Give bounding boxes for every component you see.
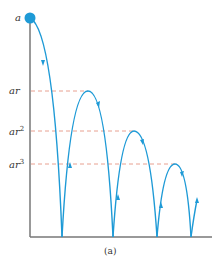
arrow-down-icon <box>140 139 144 145</box>
level-ar2-label: ar2 <box>9 126 24 137</box>
diagram-canvas <box>0 0 212 260</box>
arrow-down-icon <box>41 60 45 66</box>
start-height-label: a <box>15 13 21 23</box>
bouncing-ball-diagram: a ar ar2 ar3 (a) <box>0 0 212 260</box>
level-ar3-label: ar3 <box>9 159 24 170</box>
bounce-4-partial-path <box>191 200 197 237</box>
bounce-3-path <box>157 164 191 237</box>
ball-icon <box>25 13 36 24</box>
figure-caption: (a) <box>104 246 116 256</box>
arrow-up-icon <box>68 162 72 168</box>
direction-arrows <box>41 60 199 208</box>
ball-trajectory <box>30 18 197 237</box>
level-ar-label: ar <box>9 86 20 96</box>
arrow-up-icon <box>159 202 163 208</box>
bounce-2-path <box>113 131 157 237</box>
arrow-up-icon <box>195 197 199 203</box>
initial-drop-path <box>30 18 62 237</box>
